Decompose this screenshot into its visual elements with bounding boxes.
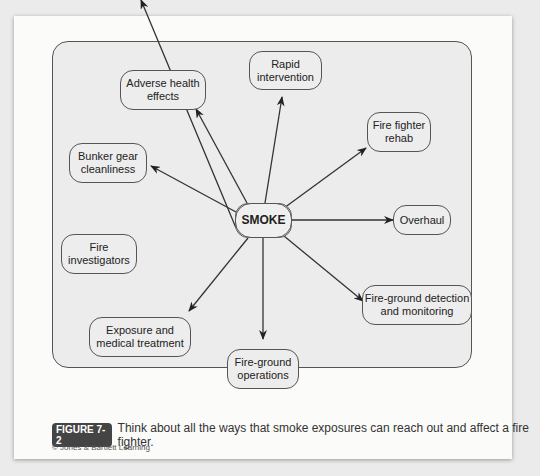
node-exposure-medical-treatment: Exposure and medical treatment xyxy=(89,317,191,357)
copyright-credit: © Jones & Bartlett Learning xyxy=(52,443,150,452)
node-fire-ground-operations: Fire-ground operations xyxy=(227,349,299,389)
node-bunker-gear-cleanliness: Bunker gear cleanliness xyxy=(69,143,147,183)
node-fire-investigators: Fire investigators xyxy=(61,234,137,274)
node-overhaul: Overhaul xyxy=(393,205,451,235)
node-fire-fighter-rehab: Fire fighter rehab xyxy=(367,112,431,152)
node-fire-ground-detection: Fire-ground detection and monitoring xyxy=(362,285,472,325)
caption-text: Think about all the ways that smoke expo… xyxy=(118,421,540,449)
node-adverse-health-effects: Adverse health effects xyxy=(120,70,206,110)
node-smoke-label-box: SMOKE xyxy=(235,203,292,238)
node-rapid-intervention: Rapid intervention xyxy=(249,51,322,90)
